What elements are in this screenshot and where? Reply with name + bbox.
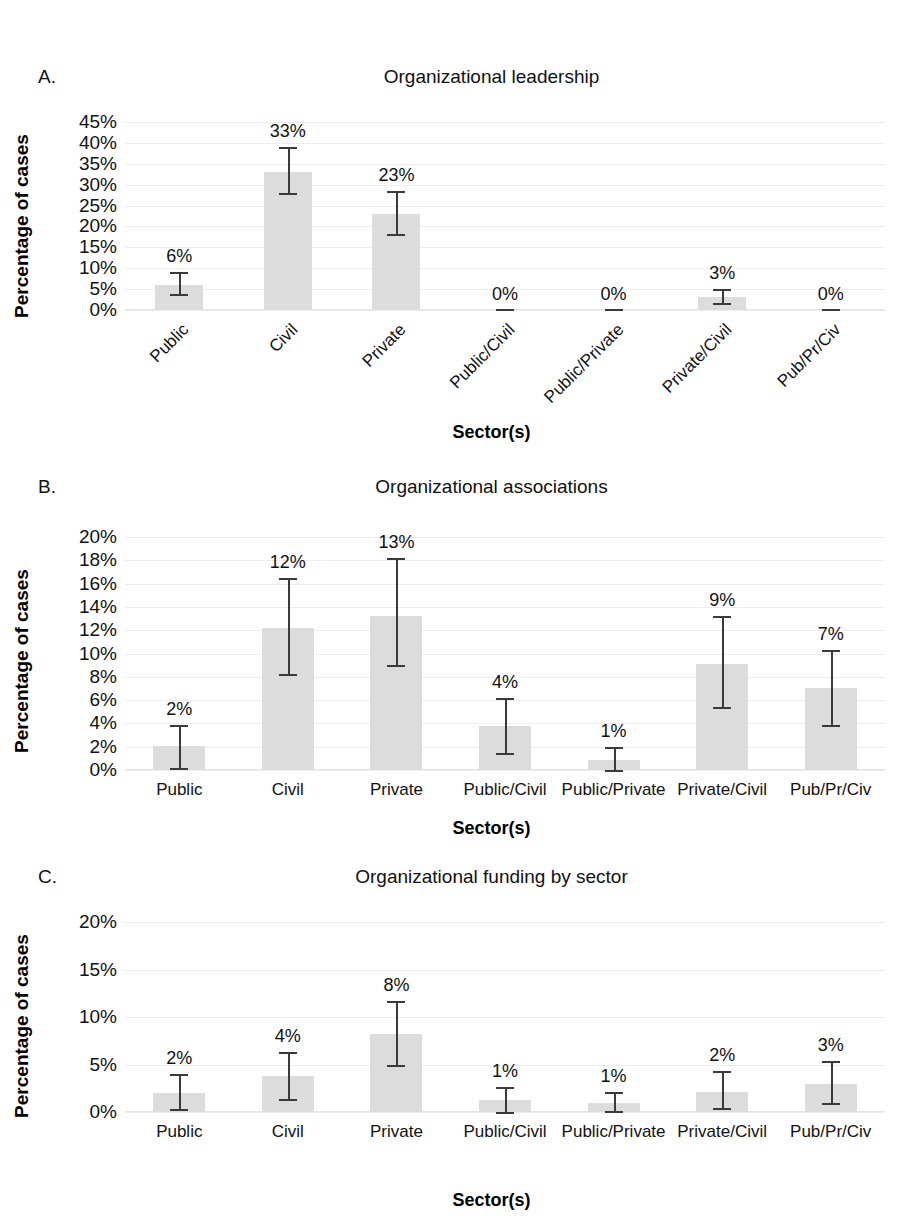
y-axis-tick-label: 8% [90,666,117,688]
error-bar-cap-lower [387,665,405,667]
error-bar [179,272,181,295]
error-bar [179,1074,181,1109]
error-bar [288,1052,290,1099]
gridline [125,607,885,608]
error-bar [288,147,290,193]
panel-a-y-axis-label: Percentage of cases [11,116,33,336]
error-bar-cap-upper [170,272,188,274]
bar-value-label: 0% [492,284,518,305]
bar-value-label: 8% [383,975,409,996]
error-bar [396,1001,398,1066]
error-bar-cap-upper [713,289,731,291]
error-bar-cap-lower [713,1108,731,1110]
error-bar [614,747,616,770]
y-axis-tick-label: 15% [79,236,117,258]
bar-value-label: 1% [601,721,627,742]
error-bar-cap-upper [387,1001,405,1003]
error-bar-cap-lower [605,770,623,772]
y-axis-tick-label: 12% [79,619,117,641]
y-axis-tick-label: 10% [79,1006,117,1028]
error-bar [722,1071,724,1108]
x-axis-tick-label: Private [370,780,423,800]
bar-value-label: 23% [378,165,414,186]
x-axis-tick-label: Public/Private [562,1122,666,1142]
bar-value-label: 9% [709,590,735,611]
y-axis-tick-label: 14% [79,596,117,618]
bar-value-label: 3% [818,1035,844,1056]
x-axis-tick-label: Pub/Pr/Civ [746,320,845,419]
x-axis-tick-label: Public/Civil [463,780,546,800]
zero-value-marker [822,309,840,311]
y-axis-tick-label: 40% [79,132,117,154]
gridline [125,630,885,631]
error-bar-cap-lower [822,725,840,727]
x-axis-tick-label: Civil [272,1122,304,1142]
y-axis-tick-label: 0% [90,759,117,781]
panel-b-y-axis-label: Percentage of cases [11,551,33,771]
bar-value-label: 1% [601,1066,627,1087]
error-bar-cap-lower [605,1111,623,1113]
error-bar [505,698,507,753]
panel-c-plot-area: 0%5%10%15%20%2%Public4%Civil8%Private1%P… [125,922,885,1112]
gridline [125,164,885,165]
panel-a-title: Organizational leadership [0,66,923,88]
gridline [125,770,885,771]
error-bar-cap-upper [496,1087,514,1089]
gridline [125,122,885,123]
error-bar [396,191,398,234]
y-axis-tick-label: 4% [90,712,117,734]
panel-a-x-axis-label: Sector(s) [0,422,923,443]
zero-value-marker [605,309,623,311]
gridline [125,970,885,971]
y-axis-tick-label: 0% [90,299,117,321]
panel-c-x-axis-label: Sector(s) [0,1190,923,1211]
x-axis-tick-label: Private/Civil [677,1122,767,1142]
x-axis-tick-label: Pub/Pr/Civ [790,780,871,800]
error-bar-cap-upper [713,616,731,618]
bar-value-label: 0% [818,284,844,305]
y-axis-tick-label: 5% [90,1054,117,1076]
error-bar-cap-lower [713,303,731,305]
y-axis-tick-label: 5% [90,278,117,300]
bar-value-label: 33% [270,121,306,142]
gridline [125,654,885,655]
error-bar-cap-lower [170,294,188,296]
error-bar-cap-lower [170,768,188,770]
error-bar-cap-lower [822,1103,840,1105]
bar-value-label: 6% [166,246,192,267]
gridline [125,143,885,144]
error-bar [831,650,833,725]
bar-value-label: 2% [709,1045,735,1066]
bar-value-label: 2% [166,699,192,720]
bar-value-label: 2% [166,1048,192,1069]
x-axis-tick-label: Pub/Pr/Civ [790,1122,871,1142]
error-bar-cap-lower [279,1099,297,1101]
error-bar [722,289,724,303]
panel-b: B. Organizational associations Percentag… [0,470,923,860]
error-bar-cap-upper [822,1061,840,1063]
gridline [125,922,885,923]
error-bar-cap-lower [496,1112,514,1114]
bar-value-label: 12% [270,552,306,573]
bar-value-label: 0% [601,284,627,305]
error-bar-cap-upper [279,1052,297,1054]
error-bar-cap-lower [713,707,731,709]
x-axis-tick-label: Public [156,780,202,800]
panel-a: A. Organizational leadership Percentage … [0,60,923,470]
error-bar-cap-upper [170,725,188,727]
x-axis-tick-label: Public/Private [562,780,666,800]
x-axis-tick-label: Public/Civil [463,1122,546,1142]
x-axis-tick-label: Public [156,1122,202,1142]
x-axis-tick-label: Private [370,1122,423,1142]
zero-value-marker [496,309,514,311]
error-bar-cap-upper [387,558,405,560]
y-axis-tick-label: 20% [79,911,117,933]
panel-b-plot-area: 0%2%4%6%8%10%12%14%16%18%20%2%Public12%C… [125,537,885,770]
error-bar [505,1087,507,1112]
x-axis-tick-label: Public [94,320,193,419]
error-bar [396,558,398,665]
error-bar [288,578,290,675]
y-axis-tick-label: 6% [90,689,117,711]
error-bar [614,1092,616,1111]
gridline [125,537,885,538]
